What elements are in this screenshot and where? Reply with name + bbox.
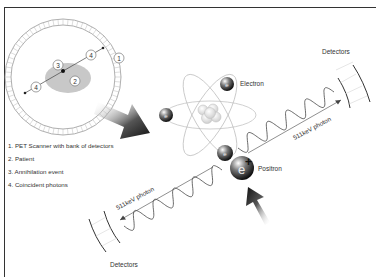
detector-tick xyxy=(110,99,115,102)
detector-tick xyxy=(5,72,11,73)
electron-top-icon: e xyxy=(220,77,234,91)
legend-item-photons: 4. Coincident photons xyxy=(8,178,113,191)
marker-1: 1 xyxy=(114,53,124,63)
detector-tick xyxy=(10,52,15,55)
detector-tick xyxy=(72,20,73,26)
detector-tick xyxy=(30,29,33,34)
legend-item-scanner: 1. PET Scanner with bank of detectors xyxy=(8,139,113,152)
detector-tick xyxy=(48,127,50,133)
detector-tick xyxy=(7,90,13,92)
svg-text:2: 2 xyxy=(73,78,77,85)
detector-tick xyxy=(34,122,37,127)
patient-ellipse xyxy=(45,63,91,93)
detector-tick xyxy=(113,90,119,92)
detector-tick xyxy=(76,21,78,27)
detector-tick xyxy=(53,128,54,134)
detector-tick xyxy=(76,127,78,133)
annihilation-point xyxy=(61,69,65,73)
marker-3: 3 xyxy=(53,60,63,70)
detector-tick xyxy=(38,124,41,129)
svg-text:4: 4 xyxy=(89,52,93,59)
detector-tick xyxy=(115,82,121,83)
svg-text:3: 3 xyxy=(56,62,60,69)
legend-item-annihilation: 3. Annihilation event xyxy=(8,165,113,178)
detector-tick xyxy=(26,33,30,38)
detector-tick xyxy=(8,95,14,97)
electron-left-icon: e xyxy=(159,108,173,122)
detector-tick xyxy=(13,48,18,51)
detector-tick xyxy=(15,107,20,110)
legend-item-patient: 2. Patient xyxy=(8,152,113,165)
positron-icon: e + xyxy=(230,155,254,180)
detectors-bottom-label: Detectors xyxy=(110,261,138,268)
detector-tick xyxy=(89,122,92,127)
detectors-top-label: Detectors xyxy=(322,48,350,55)
svg-text:4: 4 xyxy=(34,84,38,91)
detector-tick xyxy=(8,57,14,59)
detector-tick xyxy=(96,33,100,38)
detector-tick xyxy=(22,114,26,118)
detector-tick xyxy=(108,103,113,106)
detector-tick xyxy=(30,120,33,125)
detector-top-right xyxy=(336,62,370,108)
detector-tick xyxy=(89,27,92,32)
detector-tick xyxy=(114,67,120,68)
photon-arrow-upper xyxy=(248,100,341,153)
detector-tick xyxy=(6,86,12,87)
detector-tick xyxy=(81,126,83,132)
detector-tick xyxy=(48,21,50,27)
detector-tick xyxy=(93,120,96,125)
svg-text:1: 1 xyxy=(117,55,121,62)
detector-tick xyxy=(110,52,115,55)
detector-tick xyxy=(85,124,88,129)
zoom-arrow-icon xyxy=(94,102,150,139)
detector-tick xyxy=(10,99,15,102)
detector-tick xyxy=(106,44,111,47)
detector-tick xyxy=(112,95,118,97)
detector-tick xyxy=(114,86,120,87)
detector-bottom-left xyxy=(89,211,120,252)
detector-tick xyxy=(38,24,41,29)
marker-2: 2 xyxy=(70,76,80,86)
legend: 1. PET Scanner with bank of detectors 2.… xyxy=(8,139,113,191)
marker-4-upper: 4 xyxy=(86,50,96,60)
electron-label: Electron xyxy=(240,80,264,87)
detector-tick xyxy=(7,62,13,64)
detector-tick xyxy=(26,117,30,122)
detector-tick xyxy=(108,48,113,51)
detector-tick xyxy=(72,128,73,134)
positron-arrow-icon xyxy=(246,187,270,225)
detector-tick xyxy=(43,22,45,28)
nucleus xyxy=(198,104,221,124)
positron-label: Positron xyxy=(258,165,282,172)
detector-tick xyxy=(6,67,12,68)
detector-tick xyxy=(19,110,24,114)
detector-tick xyxy=(5,82,11,83)
detector-tick xyxy=(115,72,121,73)
detector-tick xyxy=(96,117,100,122)
detector-tick xyxy=(19,40,24,44)
electron-annihilating-icon: e xyxy=(217,145,233,161)
detector-tick xyxy=(53,20,54,26)
detector-tick xyxy=(93,29,96,34)
detector-tick xyxy=(81,22,83,28)
detector-tick xyxy=(100,36,104,40)
detector-tick xyxy=(34,27,37,32)
detector-tick xyxy=(85,24,88,29)
marker-4-lower: 4 xyxy=(31,82,41,92)
detector-tick xyxy=(103,40,108,44)
svg-text:+: + xyxy=(245,155,252,169)
detector-tick xyxy=(58,129,59,135)
detector-tick xyxy=(43,126,45,132)
detector-tick xyxy=(15,44,20,47)
detector-tick xyxy=(58,19,59,25)
detector-tick xyxy=(13,103,18,106)
detector-tick xyxy=(68,129,69,135)
detector-tick xyxy=(22,36,26,40)
detector-tick xyxy=(68,19,69,25)
